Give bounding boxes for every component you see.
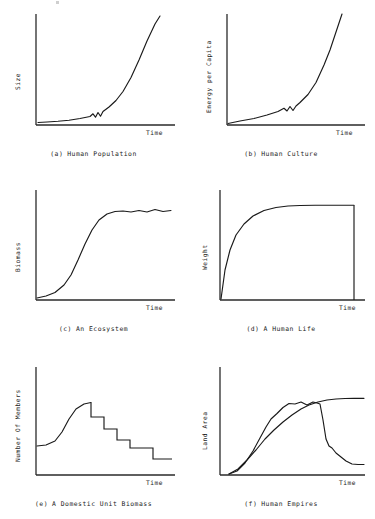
y-axis-label-f: Land Area — [201, 412, 208, 450]
caption-d: (d)A Human Life — [187, 325, 375, 333]
plot-area-d: Weight Time — [187, 170, 375, 345]
caption-a: (a)Human Population — [0, 150, 187, 158]
y-axis-label-a: Size — [14, 73, 21, 90]
caption-e-text: A Domestic Unit Biomass — [52, 500, 152, 508]
curve-biomass-c — [37, 210, 171, 299]
curve-empire-growth-f — [229, 398, 364, 474]
x-axis-label-c: Time — [146, 304, 163, 311]
plot-area-f: Land Area Time — [187, 345, 375, 519]
plot-area-e: Number Of Members Time — [0, 345, 187, 519]
x-axis-label-a: Time — [146, 129, 163, 136]
caption-c: (c)An Ecosystem — [0, 325, 187, 333]
plot-svg-e — [0, 345, 187, 495]
x-axis-label-f: Time — [339, 479, 356, 486]
panel-c-an-ecosystem: Biomass Time (c)An Ecosystem — [0, 170, 187, 345]
plot-svg-a — [0, 0, 187, 145]
plot-svg-b — [187, 0, 375, 145]
figure-grid: Size Time (a)Human Population Energy per… — [0, 0, 375, 519]
curve-members-e-steps — [91, 403, 172, 460]
y-axis-label-e: Number Of Members — [14, 389, 21, 462]
caption-d-text: A Human Life — [263, 325, 315, 333]
panel-d-a-human-life: Weight Time (d)A Human Life — [187, 170, 375, 345]
curve-weight-d — [221, 205, 354, 299]
caption-b-index: (b) — [244, 150, 257, 158]
caption-c-index: (c) — [59, 325, 72, 333]
caption-b-text: Human Culture — [261, 150, 318, 158]
plot-area-c: Biomass Time — [0, 170, 187, 345]
caption-a-index: (a) — [50, 150, 63, 158]
caption-e-index: (e) — [35, 500, 48, 508]
x-axis-label-d: Time — [339, 304, 356, 311]
plot-svg-d — [187, 170, 375, 320]
caption-f-text: Human Empires — [261, 500, 318, 508]
plot-area-b: Energy per Capita Time — [187, 0, 375, 170]
x-axis-label-b: Time — [336, 129, 353, 136]
y-axis-label-b: Energy per Capita — [205, 40, 212, 113]
plot-svg-f — [187, 345, 375, 495]
caption-f: (f)Human Empires — [187, 500, 375, 508]
curve-size-a — [38, 16, 160, 123]
panel-e-domestic-unit-biomass: Number Of Members Time (e)A Domestic Uni… — [0, 345, 187, 519]
plot-svg-c — [0, 170, 187, 320]
panel-a-human-population: Size Time (a)Human Population — [0, 0, 187, 170]
curve-empire-collapse-f — [229, 402, 364, 474]
plot-area-a: Size Time — [0, 0, 187, 170]
panel-b-human-culture: Energy per Capita Time (b)Human Culture — [187, 0, 375, 170]
curve-energy-b — [228, 14, 342, 124]
curve-members-e-rise — [37, 403, 91, 447]
x-axis-label-e: Time — [146, 479, 163, 486]
caption-f-index: (f) — [244, 500, 257, 508]
caption-a-text: Human Population — [67, 150, 137, 158]
caption-c-text: An Ecosystem — [76, 325, 128, 333]
y-axis-label-c: Biomass — [14, 242, 21, 272]
caption-b: (b)Human Culture — [187, 150, 375, 158]
caption-e: (e)A Domestic Unit Biomass — [0, 500, 187, 508]
y-axis-label-d: Weight — [201, 244, 208, 270]
caption-d-index: (d) — [246, 325, 259, 333]
panel-f-human-empires: Land Area Time (f)Human Empires — [187, 345, 375, 519]
